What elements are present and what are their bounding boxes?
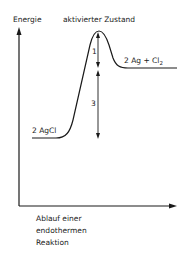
arrow-1-label: 1 [92, 47, 97, 56]
y-axis-label: Energie [13, 15, 42, 24]
y-axis-arrowhead [17, 27, 22, 35]
arrow-3-up-head [96, 70, 100, 76]
energy-curve [32, 31, 177, 138]
arrow-3-label: 3 [91, 99, 96, 108]
arrow-3-down-head [96, 133, 100, 139]
x-axis-arrowhead [169, 204, 177, 209]
product-label-main: 2 Ag + Cl [124, 56, 159, 65]
peak-label: aktivierter Zustand [63, 15, 135, 24]
x-axis-label-line-2: endothermen [36, 226, 87, 235]
x-axis-label-line-3: Reaktion [36, 238, 69, 247]
product-label-subscript: 2 [159, 60, 163, 66]
arrow-1-up-head [96, 32, 100, 38]
product-label: 2 Ag + Cl2 [124, 56, 163, 66]
reactant-label: 2 AgCl [32, 126, 56, 135]
arrow-1-down-head [96, 62, 100, 68]
x-axis-label-line-1: Ablauf einer [36, 214, 82, 223]
energy-diagram: Energie aktivierter Zustand 2 AgCl 2 Ag … [0, 0, 179, 255]
